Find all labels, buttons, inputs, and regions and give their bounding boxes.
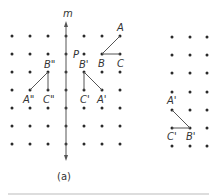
label-a-prime: A' bbox=[96, 94, 107, 105]
mirror-line-m bbox=[64, 21, 68, 161]
label-b-double-prime: B" bbox=[44, 59, 55, 70]
label-c-double-prime: C" bbox=[43, 94, 55, 105]
label-right-b-prime: B' bbox=[186, 131, 196, 142]
label-a: A bbox=[116, 22, 124, 33]
label-right-c-prime: C' bbox=[167, 131, 177, 142]
segments-abc bbox=[102, 36, 120, 54]
segments-right bbox=[172, 110, 190, 128]
label-a-double-prime: A" bbox=[22, 94, 34, 105]
caption-a: (a) bbox=[57, 171, 71, 182]
segments-a2b2c2 bbox=[30, 72, 48, 90]
label-c: C bbox=[117, 58, 124, 69]
segments-a1b1c1 bbox=[84, 72, 102, 90]
label-c-prime: C' bbox=[80, 94, 90, 105]
mirror-line-label: m bbox=[63, 8, 73, 19]
label-b-prime: B' bbox=[79, 59, 89, 70]
reflection-diagram: m A B C P B' C' A' B" A" C" (a) A' C' B' bbox=[0, 0, 209, 196]
label-b: B bbox=[98, 58, 105, 69]
label-right-a-prime: A' bbox=[166, 95, 177, 106]
